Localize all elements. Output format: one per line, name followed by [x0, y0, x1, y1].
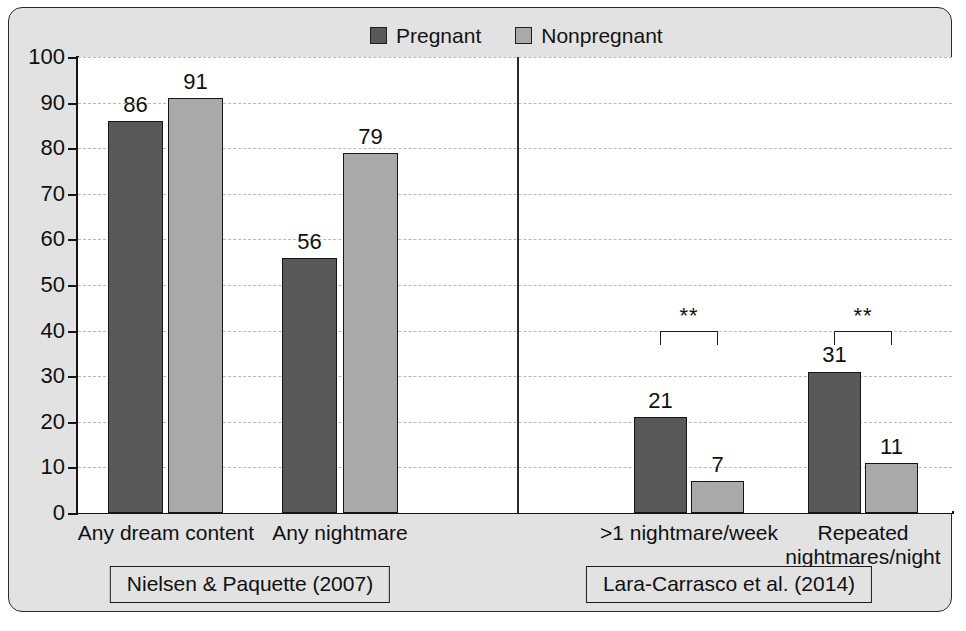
category-label-repeated-nightmares: Repeated nightmares/night [785, 521, 940, 568]
bar-value-79: 79 [358, 124, 382, 150]
tick-mark-90 [68, 103, 78, 105]
tick-mark-50 [68, 285, 78, 287]
category-label-any-dream-content: Any dream content [78, 521, 254, 545]
y-tick-label-10: 10 [41, 454, 65, 480]
tick-mark-10 [68, 467, 78, 469]
category-label-nightmare-per-week: >1 nightmare/week [600, 521, 778, 545]
bar-nonpregnant-any-dream-content [168, 98, 223, 513]
tick-mark-30 [68, 376, 78, 378]
y-tick-label-100: 100 [28, 44, 65, 70]
category-label-any-nightmare: Any nightmare [272, 521, 407, 545]
bar-nonpregnant-any-nightmare [343, 153, 398, 513]
bar-nonpregnant-more-than-one-nightmare-per-week [691, 481, 744, 513]
bar-pregnant-any-nightmare [282, 258, 337, 513]
tick-mark-0 [68, 513, 78, 515]
bar-value-91: 91 [183, 69, 207, 95]
tick-mark-40 [68, 331, 78, 333]
citation-nielsen-paquette: Nielsen & Paquette (2007) [110, 566, 390, 603]
figure-root: Pregnant Nonpregnant 100 90 80 [0, 0, 966, 631]
y-tick-label-0: 0 [53, 500, 65, 526]
gridline-100 [78, 57, 952, 58]
tick-mark-60 [68, 239, 78, 241]
citation-lara-carrasco: Lara-Carrasco et al. (2014) [586, 566, 872, 603]
y-tick-label-40: 40 [41, 318, 65, 344]
legend-entry-pregnant: Pregnant [370, 25, 481, 46]
bar-value-86: 86 [123, 92, 147, 118]
significance-bracket-nightmare-week [660, 331, 718, 345]
y-tick-label-30: 30 [41, 363, 65, 389]
plot-area: 100 90 80 70 60 50 4 [78, 57, 952, 513]
bar-value-21: 21 [648, 388, 672, 414]
bar-pregnant-repeated-nightmares-per-night [808, 372, 861, 513]
legend-label-nonpregnant: Nonpregnant [541, 25, 662, 46]
y-tick-label-20: 20 [41, 409, 65, 435]
tick-mark-100 [68, 57, 78, 59]
y-tick-label-80: 80 [41, 135, 65, 161]
bar-pregnant-any-dream-content [108, 121, 163, 513]
bar-value-31: 31 [822, 342, 846, 368]
bar-value-11: 11 [880, 434, 903, 460]
y-tick-label-50: 50 [41, 272, 65, 298]
significance-bracket-repeated-nightmares [834, 331, 892, 345]
y-tick-label-90: 90 [41, 90, 65, 116]
legend-swatch-nonpregnant-icon [515, 27, 532, 44]
y-tick-label-70: 70 [41, 181, 65, 207]
legend-swatch-pregnant-icon [370, 27, 387, 44]
chart-legend: Pregnant Nonpregnant [370, 22, 663, 48]
y-tick-label-60: 60 [41, 226, 65, 252]
legend-label-pregnant: Pregnant [396, 25, 481, 46]
bar-value-56: 56 [297, 229, 321, 255]
significance-stars-nightmare-week: ** [679, 305, 698, 327]
bar-pregnant-more-than-one-nightmare-per-week [634, 417, 687, 513]
tick-mark-20 [68, 422, 78, 424]
tick-mark-70 [68, 194, 78, 196]
study-divider-line [517, 57, 519, 513]
bar-nonpregnant-repeated-nightmares-per-night [865, 463, 918, 513]
tick-mark-80 [68, 148, 78, 150]
bar-value-7: 7 [711, 452, 723, 478]
legend-entry-nonpregnant: Nonpregnant [515, 25, 662, 46]
significance-stars-repeated-nightmares: ** [853, 305, 872, 327]
